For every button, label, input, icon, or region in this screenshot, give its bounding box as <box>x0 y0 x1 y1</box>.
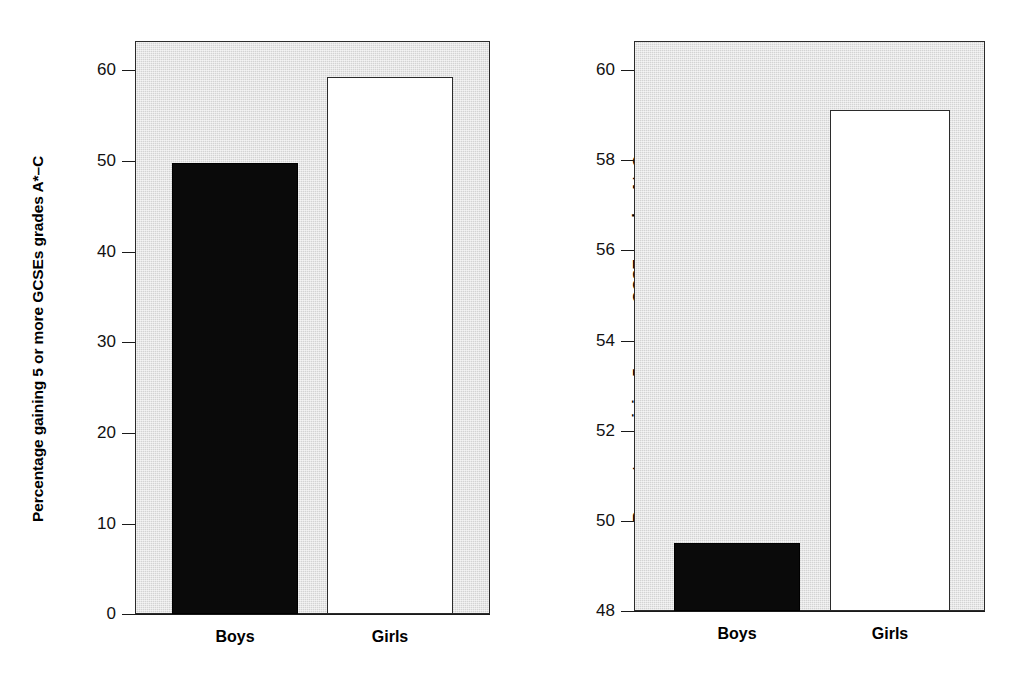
y-tick-label-left-40: 40 <box>74 242 116 262</box>
y-tick-label-left-60: 60 <box>74 60 116 80</box>
y-tick-left-60 <box>122 70 135 71</box>
bar-left-boys <box>172 163 298 614</box>
y-tick-left-30 <box>122 342 135 343</box>
y-tick-label-right-58: 58 <box>573 150 615 170</box>
y-axis-title-left: Percentage gaining 5 or more GCSEs grade… <box>18 0 58 678</box>
y-tick-left-20 <box>122 433 135 434</box>
y-tick-right-50 <box>621 521 634 522</box>
y-tick-right-54 <box>621 341 634 342</box>
y-tick-label-right-52: 52 <box>573 421 615 441</box>
bar-right-boys <box>674 543 800 611</box>
y-tick-label-left-10: 10 <box>74 514 116 534</box>
y-tick-label-left-50: 50 <box>74 151 116 171</box>
y-tick-right-52 <box>621 431 634 432</box>
figure-two-panel-bar-charts: Percentage gaining 5 or more GCSEs grade… <box>0 0 1011 678</box>
y-tick-label-right-54: 54 <box>573 331 615 351</box>
bar-left-girls <box>327 77 453 614</box>
x-category-label-right-boys: Boys <box>717 625 756 643</box>
y-tick-label-left-0: 0 <box>74 604 116 624</box>
y-tick-label-right-48: 48 <box>573 601 615 621</box>
y-tick-right-60 <box>621 70 634 71</box>
x-axis-line-right <box>621 611 985 612</box>
y-tick-label-left-30: 30 <box>74 332 116 352</box>
x-category-label-right-girls: Girls <box>872 625 908 643</box>
chart-panel-left: Percentage gaining 5 or more GCSEs grade… <box>0 0 505 678</box>
y-axis-title-left-text: Percentage gaining 5 or more GCSEs grade… <box>29 156 47 522</box>
y-tick-label-right-56: 56 <box>573 240 615 260</box>
x-category-label-left-girls: Girls <box>372 628 408 646</box>
bar-right-girls <box>830 110 950 611</box>
x-axis-line-left <box>122 614 490 615</box>
y-tick-label-right-50: 50 <box>573 511 615 531</box>
y-tick-right-56 <box>621 250 634 251</box>
y-tick-left-50 <box>122 161 135 162</box>
y-tick-left-10 <box>122 524 135 525</box>
chart-panel-right: Percentage gaining 5 or more GCSEs grade… <box>505 0 1010 678</box>
y-tick-label-left-20: 20 <box>74 423 116 443</box>
x-category-label-left-boys: Boys <box>215 628 254 646</box>
y-tick-left-40 <box>122 252 135 253</box>
y-tick-right-58 <box>621 160 634 161</box>
y-tick-label-right-60: 60 <box>573 60 615 80</box>
